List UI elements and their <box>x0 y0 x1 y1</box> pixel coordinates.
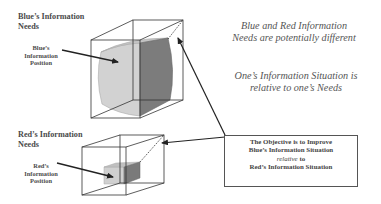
needs-differ-note-line2: Needs are potentially different <box>210 32 378 44</box>
situation-relative-note: One’s Information Situation is relative … <box>212 70 380 95</box>
objective-line2: Blue’s Information Situation <box>225 146 357 154</box>
needs-differ-note: Blue and Red Information Needs are poten… <box>210 20 378 45</box>
red-position-label-line3: Position <box>14 177 68 185</box>
objective-box: The Objective is to Improve Blue’s Infor… <box>224 135 358 187</box>
blue-position-side-face <box>140 38 173 116</box>
red-needs-heading: Red’s Information Needs <box>18 130 83 149</box>
situation-relative-note-line2: relative to one’s Needs <box>212 82 380 94</box>
blue-position-label-line3: Position <box>14 59 68 67</box>
red-needs-heading-line2: Needs <box>18 140 83 150</box>
blue-position-label-line1: Blue’s <box>14 44 68 52</box>
blue-needs-heading: Blue’s Information Needs <box>18 12 84 31</box>
blue-position-label-line2: Information <box>14 52 68 60</box>
red-needs-heading-line1: Red’s Information <box>18 130 83 140</box>
blue-needs-heading-line2: Needs <box>18 22 84 32</box>
blue-needs-cube <box>91 20 183 118</box>
objective-to-red-gap-arrow <box>162 137 225 143</box>
objective-line4: Red’s Information Situation <box>225 163 357 171</box>
objective-line1: The Objective is to Improve <box>225 138 357 146</box>
red-position-label: Red’s Information Position <box>14 162 68 185</box>
blue-position-front-face <box>98 43 140 116</box>
needs-differ-note-line1: Blue and Red Information <box>210 20 378 32</box>
objective-line3: relative to <box>225 155 357 163</box>
red-position-label-line1: Red’s <box>14 162 68 170</box>
situation-relative-note-line1: One’s Information Situation is <box>212 70 380 82</box>
red-needs-cube <box>82 135 164 195</box>
blue-needs-heading-line1: Blue’s Information <box>18 12 84 22</box>
objective-relative-word: relative <box>277 155 298 162</box>
blue-position-label: Blue’s Information Position <box>14 44 68 67</box>
red-position-label-line2: Information <box>14 170 68 178</box>
objective-to-word: to <box>298 155 305 162</box>
